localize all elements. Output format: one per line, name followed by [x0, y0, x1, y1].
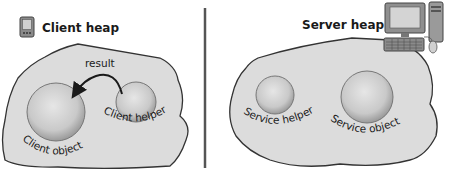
server-heap: Service helper Service object [230, 38, 437, 166]
result-label: result [85, 57, 115, 69]
pda-icon [20, 17, 34, 37]
server-heap-title: Server heap [302, 18, 385, 32]
service-object-sphere [341, 71, 393, 123]
client-heap-title: Client heap [42, 21, 119, 35]
heap-diagram: result Client object Client helper Clien… [0, 0, 450, 174]
client-heap: result Client object Client helper [3, 44, 189, 168]
service-helper-sphere [256, 76, 294, 114]
desktop-computer-icon [384, 2, 443, 53]
